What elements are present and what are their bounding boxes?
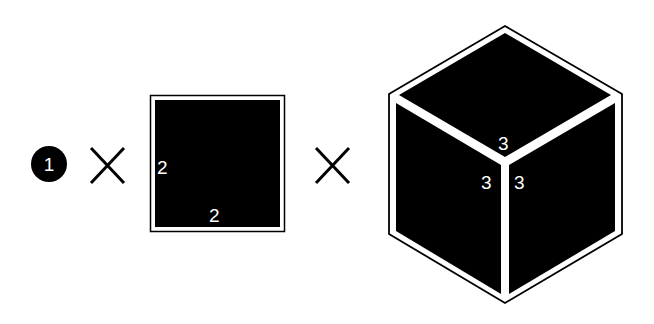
step-badge: 1 [31, 146, 67, 182]
square-shape: 2 2 [151, 96, 285, 232]
cube-left-label: 3 [481, 172, 492, 193]
square-side-label: 2 [157, 157, 168, 178]
step-number: 1 [44, 154, 55, 175]
cube-right-label: 3 [514, 172, 525, 193]
volume-diagram: 1 2 2 3 3 3 [0, 0, 654, 324]
square-bottom-label: 2 [209, 205, 220, 226]
multiply-icon [316, 148, 349, 183]
cube-shape: 3 3 3 [389, 26, 622, 303]
multiply-icon [91, 148, 124, 183]
cube-top-label: 3 [498, 133, 509, 154]
